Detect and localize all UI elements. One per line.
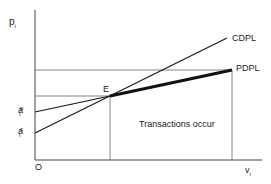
pdpl-label: PDPL <box>236 64 260 73</box>
intercept-ap-label: api <box>18 106 28 115</box>
pdpl-line-thin <box>35 96 110 112</box>
x-axis-label: vi <box>245 166 251 175</box>
pdpl-line-thick <box>110 70 232 96</box>
diagram-canvas <box>0 0 271 184</box>
origin-label: O <box>35 163 42 172</box>
region-label: Transactions occur <box>139 120 215 129</box>
equilibrium-label: E <box>103 85 109 94</box>
y-axis-label: pi <box>9 17 16 27</box>
price-demand-diagram: pi CDPL PDPL E api aci Transactions occu… <box>0 0 271 184</box>
cdpl-label: CDPL <box>232 34 256 43</box>
intercept-ac-label: aci <box>18 127 27 136</box>
